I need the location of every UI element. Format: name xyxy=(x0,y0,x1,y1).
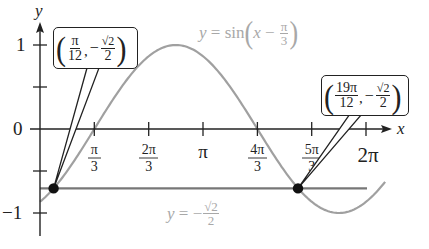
x-tick-label-2pi: 2π xyxy=(357,143,379,167)
y-tick-label-neg1: −1 xyxy=(2,202,22,223)
line-equation-label: y = − √2 2 xyxy=(167,200,220,227)
svg-text:4π: 4π xyxy=(250,142,264,157)
x-tick-label-pi-3: π 3 xyxy=(88,142,101,174)
sine-equation-label: y = sin ( x − π 3 ) xyxy=(199,18,298,48)
paren-close: ) xyxy=(116,31,126,66)
x-tick-label-2pi-3: 2π 3 xyxy=(139,142,158,174)
callout-right-y: √2 2 xyxy=(376,81,391,110)
paren-open: ( xyxy=(324,78,334,113)
callout-right-x: 19π 12 xyxy=(335,81,358,110)
paren-open: ( xyxy=(56,31,66,66)
svg-text:3: 3 xyxy=(254,159,261,174)
x-axis-label: x xyxy=(396,119,405,138)
callout-left-y: √2 2 xyxy=(101,34,116,63)
y-tick-label-1: 1 xyxy=(16,34,26,55)
x-tick-label-4pi-3: 4π 3 xyxy=(248,142,267,174)
svg-text:3: 3 xyxy=(91,159,98,174)
callout-left-x: π 12 xyxy=(67,34,83,63)
callout-left: ( π 12 , − √2 2 ) xyxy=(53,27,138,69)
svg-text:3: 3 xyxy=(145,159,152,174)
intersection-point-right[interactable] xyxy=(293,183,303,193)
svg-text:π: π xyxy=(91,142,98,157)
callout-right: ( 19π 12 , − √2 2 ) xyxy=(321,75,409,116)
y-axis-label: y xyxy=(33,1,43,20)
svg-text:5π: 5π xyxy=(305,142,319,157)
intersection-point-left[interactable] xyxy=(48,183,58,193)
y-tick-label-0: 0 xyxy=(13,118,23,139)
x-tick-label-pi: π xyxy=(198,141,208,162)
paren-close: ) xyxy=(391,78,401,113)
svg-text:2π: 2π xyxy=(142,142,156,157)
